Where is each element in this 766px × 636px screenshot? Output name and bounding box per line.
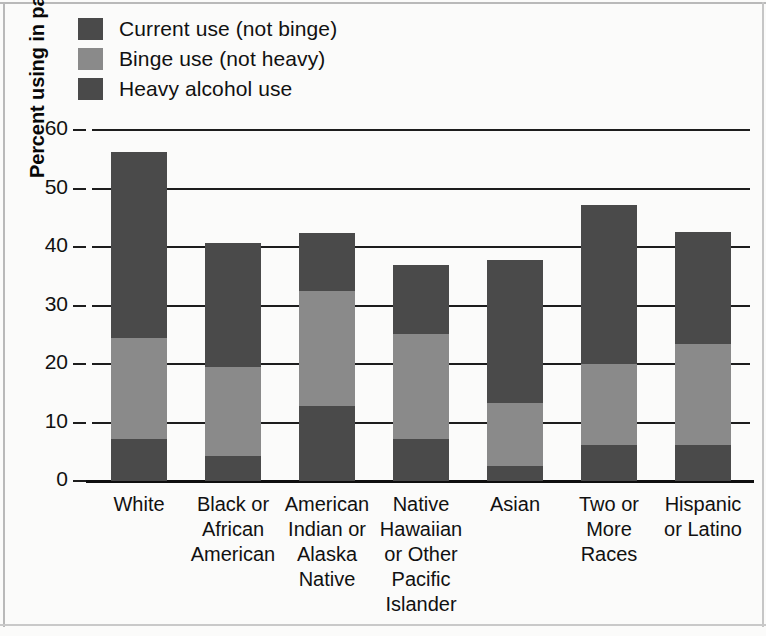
bar-hispanic-or-latino <box>675 232 731 481</box>
gridline <box>92 129 750 131</box>
bar-segment <box>393 334 449 439</box>
bar-segment <box>487 403 543 466</box>
x-axis-label: AmericanIndian orAlaskaNative <box>275 492 379 592</box>
y-axis-tick <box>73 480 86 482</box>
bar-segment <box>393 439 449 481</box>
legend-label: Current use (not binge) <box>119 17 337 41</box>
bar-segment <box>111 152 167 338</box>
x-axis-label-line: Islander <box>369 592 473 617</box>
legend-item: Current use (not binge) <box>78 14 498 44</box>
page-frame-bottom <box>0 624 766 626</box>
x-axis-label-line: More <box>557 517 661 542</box>
legend-label: Binge use (not heavy) <box>119 47 325 71</box>
x-axis-label-line: Indian or <box>275 517 379 542</box>
chart-legend: Current use (not binge)Binge use (not he… <box>78 14 498 104</box>
x-axis-label: NativeHawaiianor OtherPacificIslander <box>369 492 473 617</box>
bar-segment <box>393 265 449 335</box>
legend-item: Binge use (not heavy) <box>78 44 498 74</box>
page-frame-right <box>762 2 764 627</box>
bar-segment <box>205 456 261 481</box>
y-axis-tick-label: 40 <box>22 233 68 257</box>
x-axis-label-line: African <box>181 517 285 542</box>
y-axis-tick-label: 50 <box>22 175 68 199</box>
legend-item: Heavy alcohol use <box>78 74 498 104</box>
x-axis-labels: WhiteBlack orAfricanAmericanAmericanIndi… <box>92 492 750 622</box>
bar-segment <box>581 364 637 445</box>
legend-swatch <box>78 18 103 40</box>
bar-segment <box>581 445 637 481</box>
y-axis-tick <box>73 363 86 365</box>
legend-swatch <box>78 48 103 70</box>
bar-segment <box>299 406 355 481</box>
page-frame-top <box>0 2 766 4</box>
x-axis-label: Two orMoreRaces <box>557 492 661 567</box>
x-axis-label-line: Hispanic <box>651 492 755 517</box>
bar-segment <box>111 338 167 439</box>
y-axis-tick <box>73 129 86 131</box>
legend-swatch <box>78 78 103 100</box>
legend-label: Heavy alcohol use <box>119 77 292 101</box>
x-axis-label: White <box>87 492 191 517</box>
bar-black-or-african-american <box>205 243 261 481</box>
x-axis-label: Hispanicor Latino <box>651 492 755 542</box>
bar-segment <box>111 439 167 481</box>
x-axis-label: Black orAfricanAmerican <box>181 492 285 567</box>
plot-area: Percent using in past month 605040302010… <box>92 130 750 481</box>
y-axis-tick <box>73 188 86 190</box>
x-axis-label-line: Alaska <box>275 542 379 567</box>
bar-native-hawaiian-or-other-pacific-islander <box>393 265 449 481</box>
x-axis-label-line: Two or <box>557 492 661 517</box>
y-axis-tick-label: 10 <box>22 409 68 433</box>
y-axis-tick-label: 60 <box>22 116 68 140</box>
gridline <box>92 246 750 248</box>
bar-segment <box>205 367 261 456</box>
bar-segment <box>581 205 637 364</box>
x-axis-label-line: White <box>87 492 191 517</box>
x-axis-label-line: American <box>275 492 379 517</box>
chart-figure: Current use (not binge)Binge use (not he… <box>0 0 766 636</box>
bar-segment <box>675 344 731 445</box>
bar-white <box>111 152 167 481</box>
y-axis-tick-label: 30 <box>22 292 68 316</box>
x-axis-label-line: Hawaiian <box>369 517 473 542</box>
y-axis-tick <box>73 305 86 307</box>
x-axis-label-line: Asian <box>463 492 567 517</box>
bar-american-indian-or-alaska-native <box>299 233 355 481</box>
bar-asian <box>487 260 543 481</box>
x-axis-label-line: Pacific <box>369 567 473 592</box>
bar-segment <box>205 243 261 367</box>
y-axis-tick-label: 20 <box>22 350 68 374</box>
bar-segment <box>487 260 543 403</box>
bar-segment <box>675 232 731 343</box>
page-frame-left <box>3 2 5 627</box>
x-axis-label-line: Native <box>275 567 379 592</box>
bar-segment <box>675 445 731 481</box>
bar-segment <box>299 233 355 291</box>
y-axis-tick <box>73 246 86 248</box>
bar-segment <box>299 291 355 406</box>
scan-bleed-text <box>0 629 766 636</box>
x-axis-label-line: or Latino <box>651 517 755 542</box>
x-axis-label-line: Races <box>557 542 661 567</box>
y-axis-tick <box>73 422 86 424</box>
x-axis-label-line: Native <box>369 492 473 517</box>
x-axis-label: Asian <box>463 492 567 517</box>
gridline <box>92 188 750 190</box>
bar-segment <box>487 466 543 481</box>
x-axis-label-line: Black or <box>181 492 285 517</box>
x-axis-label-line: American <box>181 542 285 567</box>
x-axis-label-line: or Other <box>369 542 473 567</box>
y-axis-tick-label: 0 <box>22 467 68 491</box>
bar-two-or-more-races <box>581 205 637 481</box>
